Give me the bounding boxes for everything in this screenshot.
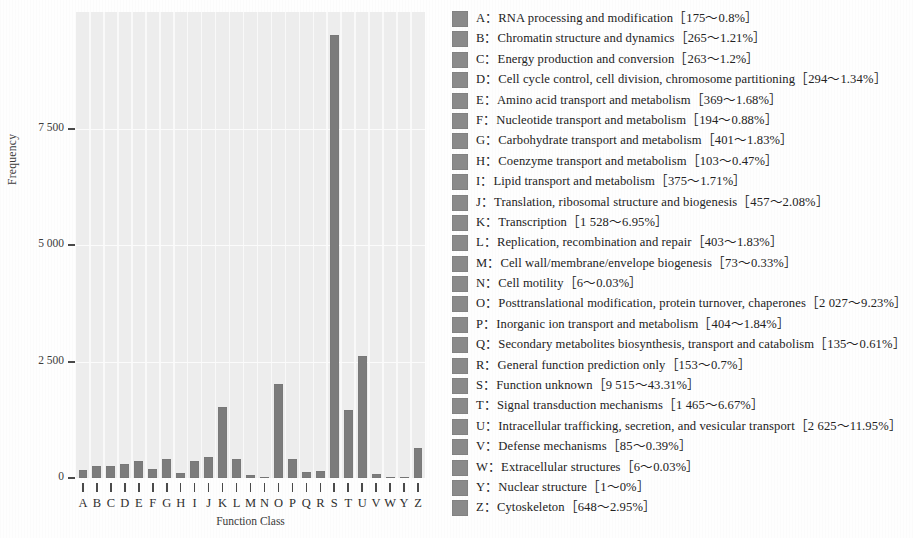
legend-label: O：Posttranslational modification, protei…: [476, 294, 907, 313]
legend-item-E[interactable]: E：Amino acid transport and metabolism［36…: [452, 91, 913, 111]
x-tick-mark: [306, 483, 308, 492]
bar-N[interactable]: [260, 477, 269, 478]
legend-label: G：Carbohydrate transport and metabolism［…: [476, 131, 793, 150]
bar-L[interactable]: [232, 459, 241, 478]
y-tick-mark: [68, 361, 75, 363]
legend-label: B：Chromatin structure and dynamics［265～1…: [476, 29, 766, 48]
legend-swatch-icon: [452, 378, 468, 394]
legend-item-P[interactable]: P：Inorganic ion transport and metabolism…: [452, 315, 913, 335]
legend-item-Y[interactable]: Y：Nuclear structure［1～0%］: [452, 478, 913, 498]
legend-label: Q：Secondary metabolites biosynthesis, tr…: [476, 335, 906, 354]
legend-item-O[interactable]: O：Posttranslational modification, protei…: [452, 294, 913, 314]
legend-item-H[interactable]: H：Coenzyme transport and metabolism［103～…: [452, 152, 913, 172]
bar-J[interactable]: [204, 457, 213, 478]
legend-label: V：Defense mechanisms［85～0.39%］: [476, 437, 692, 456]
bar-M[interactable]: [246, 475, 255, 478]
legend-label: C：Energy production and conversion［263～1…: [476, 50, 760, 69]
x-tick-mark: [333, 483, 335, 492]
legend-item-F[interactable]: F：Nucleotide transport and metabolism［19…: [452, 111, 913, 131]
x-tick-mark: [194, 483, 196, 492]
bar-D[interactable]: [120, 464, 129, 478]
legend-item-U[interactable]: U：Intracellular trafficking, secretion, …: [452, 417, 913, 437]
bar-O[interactable]: [274, 384, 283, 478]
legend-item-A[interactable]: A：RNA processing and modification［175～0.…: [452, 9, 913, 29]
legend-label: Z：Cytoskeleton［648～2.95%］: [476, 498, 656, 517]
legend-item-Z[interactable]: Z：Cytoskeleton［648～2.95%］: [452, 498, 913, 518]
bar-P[interactable]: [288, 459, 297, 478]
legend-swatch-icon: [452, 31, 468, 47]
legend-item-G[interactable]: G：Carbohydrate transport and metabolism［…: [452, 131, 913, 151]
bar-H[interactable]: [176, 473, 185, 478]
bar-I[interactable]: [190, 461, 199, 478]
gridline: [76, 129, 425, 130]
y-tick-label: 0: [4, 470, 64, 482]
bar-V[interactable]: [372, 474, 381, 478]
legend-item-J[interactable]: J：Translation, ribosomal structure and b…: [452, 193, 913, 213]
bar-Y[interactable]: [400, 477, 409, 478]
legend-label: D：Cell cycle control, cell division, chr…: [476, 70, 887, 89]
legend-label: S：Function unknown［9 515～43.31%］: [476, 376, 700, 395]
legend: A：RNA processing and modification［175～0.…: [452, 9, 913, 519]
bar-W[interactable]: [386, 477, 395, 478]
legend-label: L：Replication, recombination and repair［…: [476, 233, 783, 252]
bar-K[interactable]: [218, 407, 227, 478]
legend-item-I[interactable]: I：Lipid transport and metabolism［375～1.7…: [452, 172, 913, 192]
x-tick-mark: [389, 483, 391, 492]
x-tick-mark: [375, 483, 377, 492]
legend-item-D[interactable]: D：Cell cycle control, cell division, chr…: [452, 70, 913, 90]
plot-area: [76, 12, 425, 478]
legend-swatch-icon: [452, 215, 468, 231]
legend-item-N[interactable]: N：Cell motility［6～0.03%］: [452, 274, 913, 294]
y-tick-mark: [68, 477, 75, 479]
legend-label: I：Lipid transport and metabolism［375～1.7…: [476, 172, 746, 191]
legend-swatch-icon: [452, 154, 468, 170]
legend-swatch-icon: [452, 93, 468, 109]
bar-E[interactable]: [134, 461, 143, 478]
bar-Q[interactable]: [302, 472, 311, 478]
legend-label: K：Transcription［1 528～6.95%］: [476, 213, 668, 232]
y-tick-mark: [68, 128, 75, 130]
legend-swatch-icon: [452, 358, 468, 374]
legend-label: A：RNA processing and modification［175～0.…: [476, 9, 758, 28]
legend-item-T[interactable]: T：Signal transduction mechanisms［1 465～6…: [452, 396, 913, 416]
legend-label: Y：Nuclear structure［1～0%］: [476, 478, 650, 497]
x-tick-mark: [264, 483, 266, 492]
x-tick-mark: [166, 483, 168, 492]
x-tick-mark: [124, 483, 126, 492]
bar-C[interactable]: [106, 466, 115, 478]
legend-swatch-icon: [452, 276, 468, 292]
x-tick-mark: [250, 483, 252, 492]
legend-item-M[interactable]: M：Cell wall/membrane/envelope biogenesis…: [452, 254, 913, 274]
legend-swatch-icon: [452, 337, 468, 353]
bar-G[interactable]: [162, 459, 171, 478]
x-tick-mark: [361, 483, 363, 492]
legend-item-W[interactable]: W：Extracellular structures［6～0.03%］: [452, 458, 913, 478]
bar-F[interactable]: [148, 469, 157, 478]
bar-S[interactable]: [330, 35, 339, 478]
legend-item-B[interactable]: B：Chromatin structure and dynamics［265～1…: [452, 29, 913, 49]
legend-item-C[interactable]: C：Energy production and conversion［263～1…: [452, 50, 913, 70]
bar-R[interactable]: [316, 471, 325, 478]
gridline: [76, 245, 425, 246]
legend-item-V[interactable]: V：Defense mechanisms［85～0.39%］: [452, 437, 913, 457]
legend-swatch-icon: [452, 235, 468, 251]
bar-Z[interactable]: [414, 448, 423, 478]
legend-item-K[interactable]: K：Transcription［1 528～6.95%］: [452, 213, 913, 233]
bar-T[interactable]: [344, 410, 353, 478]
legend-item-L[interactable]: L：Replication, recombination and repair［…: [452, 233, 913, 253]
y-tick-mark: [68, 244, 75, 246]
legend-label: W：Extracellular structures［6～0.03%］: [476, 458, 699, 477]
x-tick-mark: [417, 483, 419, 492]
x-tick-mark: [320, 483, 322, 492]
cog-function-class-bar-chart: Frequency 02 5005 0007 500 ABCDEFGHIJKLM…: [0, 0, 452, 538]
legend-label: N：Cell motility［6～0.03%］: [476, 274, 642, 293]
legend-item-S[interactable]: S：Function unknown［9 515～43.31%］: [452, 376, 913, 396]
legend-item-Q[interactable]: Q：Secondary metabolites biosynthesis, tr…: [452, 335, 913, 355]
legend-swatch-icon: [452, 52, 468, 68]
bar-U[interactable]: [358, 356, 367, 478]
x-tick-mark: [347, 483, 349, 492]
y-axis-title: Frequency: [6, 45, 18, 185]
bar-A[interactable]: [79, 470, 88, 478]
legend-item-R[interactable]: R：General function prediction only［153～0…: [452, 356, 913, 376]
bar-B[interactable]: [92, 466, 101, 478]
